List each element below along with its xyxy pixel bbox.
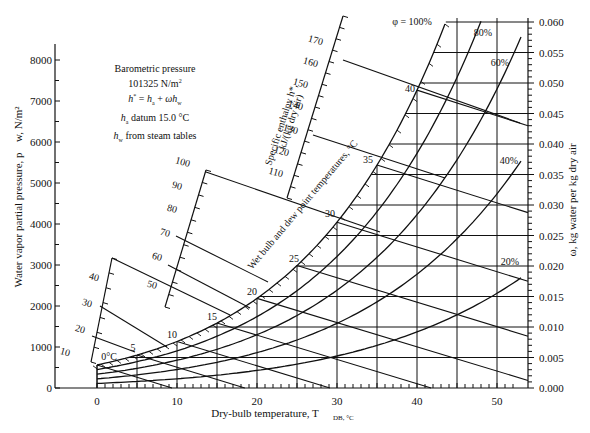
left-axis-tick-label: 3000 <box>30 259 53 271</box>
enthalpy-lower-label: 20 <box>74 322 87 335</box>
enthalpy-upper-tick <box>301 153 306 155</box>
rh-curve-label: 60% <box>491 57 509 68</box>
enthalpy-upper-label: 170 <box>307 33 324 48</box>
saturation-tick <box>333 227 337 230</box>
enthalpy-upper-tick <box>319 96 324 98</box>
wet-bulb-label: 15 <box>207 311 217 322</box>
enthalpy-lower-tick <box>97 332 102 334</box>
wet-bulb-label: 35 <box>363 154 373 165</box>
enthalpy-middle-tick <box>191 220 196 222</box>
saturation-tick <box>405 115 409 118</box>
enthalpy-lower-tick <box>100 317 105 319</box>
annotation-line-4: ha datum 15.0 °C <box>95 111 215 129</box>
enthalpy-middle-tick <box>202 182 207 184</box>
enthalpy-upper-tick <box>291 187 296 189</box>
enthalpy-middle-label: 80 <box>166 202 179 215</box>
saturation-tick <box>253 301 257 304</box>
saturation-tick <box>237 312 241 315</box>
saturation-tick <box>229 316 233 319</box>
enthalpy-lower-tick <box>109 273 114 275</box>
right-axis-tick-label: 0.035 <box>539 169 564 181</box>
left-axis-tick-label: 4000 <box>30 218 53 230</box>
wet-bulb-line <box>337 222 528 281</box>
wet-bulb-line <box>217 323 431 388</box>
left-axis-title-unit: w, N/m² <box>12 106 24 142</box>
enthalpy-middle-label: 90 <box>171 179 184 192</box>
enthalpy-upper-label: 160 <box>302 55 319 70</box>
rh-curve-label: 20% <box>501 256 519 267</box>
saturation-tick <box>389 145 393 148</box>
right-axis-tick-label: 0.060 <box>539 16 564 28</box>
left-axis-tick-label: 7000 <box>30 95 53 107</box>
enthalpy-upper-tick <box>308 130 313 132</box>
wet-bulb-label: 40 <box>405 83 415 94</box>
enthalpy-middle-tick <box>199 195 204 197</box>
wet-bulb-label: 10 <box>167 329 177 340</box>
enthalpy-lower-label: 40 <box>88 270 101 283</box>
x-axis-tick-label: 0 <box>94 395 100 407</box>
enthalpy-middle-label: 50 <box>146 278 159 291</box>
enthalpy-lower-tick <box>106 288 111 290</box>
enthalpy-upper-tick <box>294 175 299 177</box>
enthalpy-middle-tick <box>169 295 174 297</box>
enthalpy-upper-tick <box>329 62 334 64</box>
x-axis-tick-label: 20 <box>252 395 264 407</box>
annotation-line-1: Barometric pressure <box>95 62 215 75</box>
enthalpy-upper-tick <box>336 39 341 41</box>
saturation-tick <box>293 269 297 272</box>
enthalpy-middle-label: 60 <box>151 250 164 263</box>
enthalpy-reference-line <box>100 306 167 347</box>
right-axis-tick-label: 0.015 <box>539 291 564 303</box>
right-axis-tick-label: 0.005 <box>539 352 564 364</box>
enthalpy-middle-tick <box>187 232 192 234</box>
enthalpy-reference-line <box>92 336 135 352</box>
x-axis-tick-label: 40 <box>412 395 424 407</box>
rh-curve-label: φ = 100% <box>392 16 432 27</box>
saturation-tick <box>349 207 353 210</box>
enthalpy-lower-tick <box>91 362 96 364</box>
enthalpy-middle-tick <box>165 307 170 309</box>
saturation-tick <box>437 44 441 47</box>
rh-curve-label: 40% <box>500 155 518 166</box>
saturation-tick <box>357 196 361 199</box>
left-axis-tick-label: 1000 <box>30 341 53 353</box>
saturation-tick <box>277 283 281 286</box>
enthalpy-upper-tick <box>305 141 310 143</box>
saturation-tick <box>301 262 305 265</box>
enthalpy-middle-tick <box>195 207 200 209</box>
wet-bulb-label: 5 <box>131 342 136 353</box>
right-axis-tick-label: 0.030 <box>539 199 564 211</box>
saturation-tick <box>221 321 225 324</box>
saturation-tick <box>397 130 401 133</box>
saturation-tick <box>93 366 97 369</box>
x-axis-tick-label: 30 <box>332 395 344 407</box>
left-axis-tick-label: 6000 <box>30 136 53 148</box>
right-axis-tick-label: 0.050 <box>539 77 564 89</box>
enthalpy-upper-tick <box>312 118 317 120</box>
saturation-tick <box>381 158 385 161</box>
enthalpy-upper-tick <box>340 27 345 29</box>
right-axis-tick-label: 0.025 <box>539 230 564 242</box>
enthalpy-upper-tick <box>298 164 303 166</box>
right-axis-tick-label: 0.020 <box>539 260 564 272</box>
saturation-tick <box>365 184 369 187</box>
enthalpy-middle-label: 100 <box>174 154 191 169</box>
right-axis-tick-label: 0.040 <box>539 138 564 150</box>
enthalpy-middle-tick <box>206 170 211 172</box>
wet-bulb-label: 30 <box>325 208 335 219</box>
enthalpy-upper-tick <box>322 84 327 86</box>
enthalpy-upper-tick <box>315 107 320 109</box>
right-axis-tick-label: 0.010 <box>539 321 564 333</box>
saturation-tick <box>317 245 321 248</box>
left-axis-tick-label: 2000 <box>30 300 53 312</box>
enthalpy-upper-tick <box>287 198 292 200</box>
annotation-line-5: hw from steam tables <box>95 129 215 147</box>
annotation-box: Barometric pressure 101325 N/m2 h* = ha … <box>95 62 215 147</box>
right-axis-title: ω, kg water per kg dry air <box>566 143 578 257</box>
wet-bulb-label: 25 <box>289 253 299 264</box>
annotation-line-2: 101325 N/m2 <box>95 75 215 90</box>
enthalpy-upper-label: 110 <box>267 165 284 179</box>
left-axis-tick-label: 0 <box>47 382 53 394</box>
saturation-tick <box>269 289 273 292</box>
enthalpy-lower-tick <box>94 347 99 349</box>
